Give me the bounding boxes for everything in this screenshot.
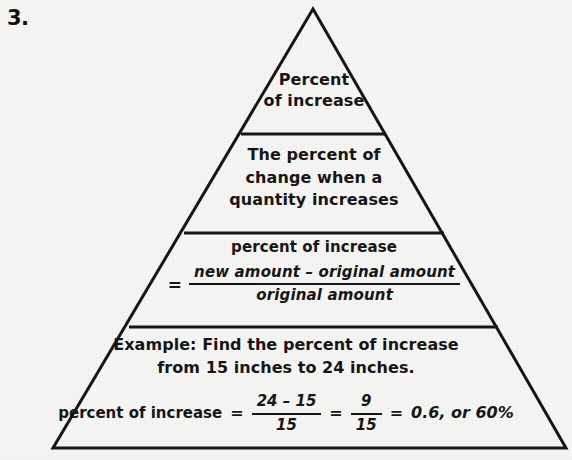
tier-4-fraction-1-numerator: 24 – 15 — [252, 392, 322, 413]
tier-3-equation: = new amount – original amount original … — [128, 263, 500, 306]
tier-3-formula-label: percent of increase — [128, 238, 500, 258]
tier-3-formula: percent of increase = new amount – origi… — [128, 238, 500, 306]
tier-1-term: Percent of increase — [226, 70, 402, 112]
tier-4-example: Example: Find the percent of increase fr… — [58, 333, 514, 435]
tier-4-result: 0.6, or 60% — [411, 403, 514, 424]
tier-1-line-2: of increase — [226, 91, 402, 112]
tier-2-definition: The percent of change when a quantity in… — [186, 144, 442, 212]
tier-4-fraction-2: 9 15 — [351, 392, 382, 435]
tier-2-line-2: change when a — [186, 167, 442, 190]
worksheet-page: 3. Percent of increase The percent of ch… — [0, 0, 572, 460]
tier-2-line-3: quantity increases — [186, 189, 442, 212]
tier-1-line-1: Percent — [226, 70, 402, 91]
tier-3-fraction: new amount – original amount original am… — [189, 263, 460, 306]
tier-4-solution-lead: percent of increase — [58, 404, 222, 424]
tier-3-denominator: original amount — [251, 285, 398, 306]
tier-3-equals-sign: = — [168, 275, 182, 294]
item-number-label: 3. — [7, 6, 29, 30]
tier-4-fraction-1-denominator: 15 — [271, 415, 302, 436]
tier-4-solution-equation: percent of increase = 24 – 15 15 = 9 15 … — [58, 392, 514, 435]
tier-4-equals-2: = — [329, 403, 342, 424]
tier-4-fraction-2-denominator: 15 — [351, 415, 382, 436]
tier-4-equals-3: = — [390, 403, 403, 424]
tier-4-example-text: Example: Find the percent of increase fr… — [58, 333, 514, 379]
tier-2-line-1: The percent of — [186, 144, 442, 167]
tier-4-example-line-2: from 15 inches to 24 inches. — [58, 356, 514, 379]
tier-4-equals-1: = — [230, 403, 243, 424]
tier-4-fraction-2-numerator: 9 — [356, 392, 376, 413]
tier-4-example-line-1: Example: Find the percent of increase — [58, 333, 514, 356]
tier-4-fraction-1: 24 – 15 15 — [252, 392, 322, 435]
tier-3-numerator: new amount – original amount — [189, 263, 460, 284]
